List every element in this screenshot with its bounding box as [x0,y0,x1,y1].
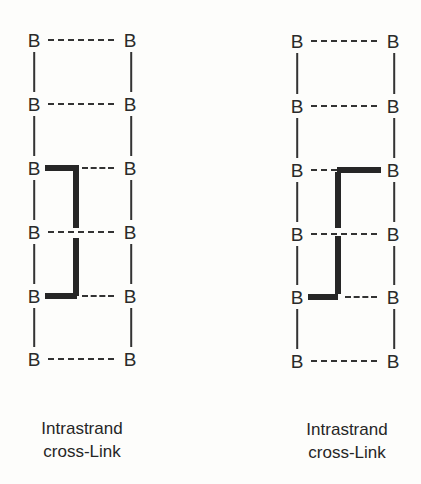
base-left-5: B [289,288,305,307]
base-left-1: B [26,31,42,50]
base-left-2: B [289,97,305,116]
backbone-segment [130,180,132,220]
base-right-3: B [122,159,138,178]
base-pair-bond [48,231,114,233]
diagram-caption: Intrastrand cross-Link [12,417,152,463]
base-right-3: B [385,161,401,180]
base-pair-bond [311,360,377,362]
base-right-2: B [385,97,401,116]
base-pair-bond [311,233,377,235]
backbone-segment [393,309,395,349]
caption-line-1: Intrastrand [277,418,417,441]
base-left-5: B [26,287,42,306]
base-pair-bond [345,296,377,298]
crosslink-vertical-upper [335,172,341,228]
base-pair-bond [82,295,114,297]
base-left-1: B [289,32,305,51]
backbone-segment [296,309,298,349]
backbone-segment [393,182,395,222]
base-pair-bond [311,40,377,42]
backbone-segment [33,116,35,156]
backbone-segment [296,118,298,158]
base-pair-bond [48,103,114,105]
backbone-segment [130,244,132,284]
base-pair-bond [311,169,337,171]
base-right-2: B [122,95,138,114]
backbone-segment [393,53,395,94]
caption-line-2: cross-Link [277,441,417,464]
crosslink-vertical-lower [73,238,79,296]
backbone-segment [296,182,298,222]
base-pair-bond [311,105,377,107]
base-left-3: B [26,159,42,178]
backbone-segment [296,53,298,94]
crosslink-bottom-arm [308,294,338,300]
base-pair-bond [48,358,114,360]
right-ladder-diagram: B B B B B B B B B B B B Intrastrand cros… [263,0,421,484]
base-right-6: B [385,352,401,371]
backbone-segment [130,308,132,347]
base-left-6: B [26,350,42,369]
base-right-6: B [122,350,138,369]
backbone-segment [33,244,35,284]
base-right-1: B [385,32,401,51]
backbone-segment [130,52,132,92]
base-left-6: B [289,352,305,371]
base-left-4: B [26,223,42,242]
diagram-caption: Intrastrand cross-Link [277,418,417,464]
base-right-5: B [385,288,401,307]
crosslink-vertical-lower [335,236,341,294]
base-pair-bond [82,167,114,169]
base-pair-bond [48,39,114,41]
left-ladder-diagram: B B B B B B B B B B B B Intrastrand cros… [0,0,210,484]
caption-line-2: cross-Link [12,440,152,463]
base-right-4: B [122,223,138,242]
caption-line-1: Intrastrand [12,417,152,440]
base-left-3: B [289,161,305,180]
base-right-4: B [385,225,401,244]
backbone-segment [296,246,298,285]
crosslink-top-arm [337,167,381,173]
crosslink-bottom-arm [45,293,77,299]
backbone-segment [393,118,395,158]
backbone-segment [33,180,35,220]
backbone-segment [33,52,35,92]
base-right-1: B [122,31,138,50]
backbone-segment [33,308,35,347]
base-right-5: B [122,287,138,306]
base-left-2: B [26,95,42,114]
backbone-segment [130,116,132,156]
crosslink-vertical-upper [73,170,79,228]
base-left-4: B [289,225,305,244]
backbone-segment [393,246,395,285]
